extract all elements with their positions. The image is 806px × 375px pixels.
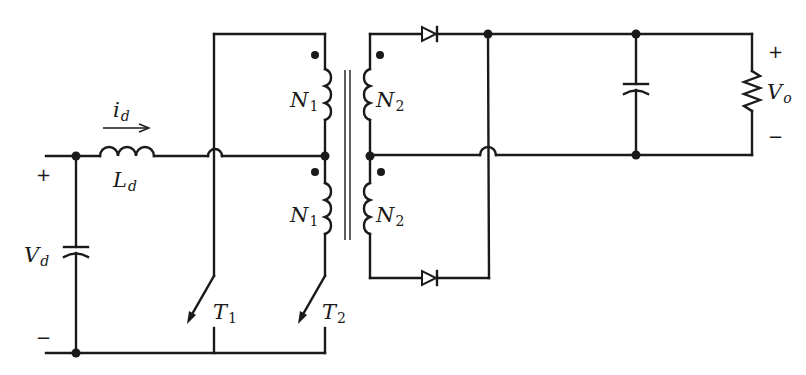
- transformer-core: [345, 70, 350, 240]
- input-plus-sign: +: [36, 166, 51, 184]
- input-capacitor: [64, 156, 88, 353]
- output-return-rail: [370, 147, 752, 155]
- cathode-bus: [488, 34, 489, 278]
- secondary-winding-bottom: [364, 156, 370, 278]
- secondary-bottom-label: N2: [376, 205, 404, 228]
- input-top-rail: [46, 147, 325, 156]
- polarity-dot: [311, 51, 319, 59]
- diode-bottom: [370, 271, 489, 285]
- output-voltage-label: Vo: [767, 82, 792, 105]
- output-minus-sign: −: [768, 128, 783, 146]
- output-plus-sign: +: [768, 43, 783, 61]
- secondary-top-label: N2: [376, 90, 404, 113]
- primary-center-tap-dot: [321, 152, 330, 161]
- circuit-diagram: id Ld Vd T1 T2 N1 N1 N2 N2 Vo + − + −: [0, 0, 806, 375]
- switch-t1-label: T1: [213, 302, 237, 325]
- primary-winding-top: [325, 34, 331, 156]
- polarity-dot: [376, 51, 384, 59]
- load-resistor: [744, 34, 760, 155]
- input-minus-sign: −: [36, 329, 51, 347]
- inductor-label: Ld: [113, 170, 137, 193]
- current-label: id: [113, 100, 130, 123]
- source-voltage-label: Vd: [24, 245, 49, 268]
- polarity-dot: [311, 168, 319, 176]
- switch-T1: [187, 34, 214, 353]
- secondary-winding-top: [364, 34, 370, 156]
- diode-top: [370, 27, 488, 41]
- current-arrow-icon: [103, 124, 149, 132]
- node-dot: [72, 152, 81, 161]
- primary-winding-bottom: [325, 156, 331, 276]
- primary-top-label: N1: [290, 90, 318, 113]
- input-inductor: [100, 147, 154, 156]
- switch-t2-label: T2: [322, 302, 346, 325]
- polarity-dot: [377, 168, 385, 176]
- primary-bottom-label: N1: [290, 205, 318, 228]
- output-capacitor: [624, 34, 648, 155]
- switch-T2: [298, 276, 325, 353]
